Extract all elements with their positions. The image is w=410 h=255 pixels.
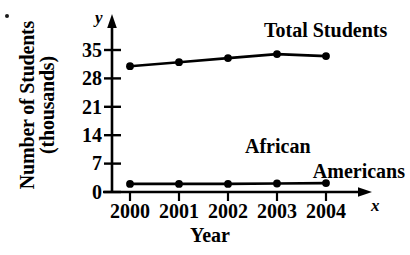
series-label-total-students: Total Students	[264, 19, 387, 42]
chart-container: Number of Students (thousands) y x	[0, 0, 410, 255]
series-total-students-markers	[126, 50, 330, 70]
data-point-total-2001	[175, 58, 183, 66]
x-axis-arrowhead	[358, 187, 372, 197]
y-tick-label-35: 35	[56, 39, 102, 62]
x-tick-label-2001: 2001	[154, 200, 204, 223]
data-point-total-2003	[273, 50, 281, 58]
data-point-total-2000	[126, 62, 134, 70]
y-tick-label-21: 21	[56, 96, 102, 119]
data-point-total-2002	[224, 54, 232, 62]
x-axis-title: Year	[120, 224, 300, 247]
data-point-total-2004	[322, 52, 330, 60]
x-tick-label-2004: 2004	[301, 200, 351, 223]
series-label-african-americans-line-1: African	[245, 135, 311, 157]
data-point-aa-2001	[175, 180, 183, 188]
y-tick-label-0: 0	[56, 181, 102, 204]
data-point-aa-2000	[126, 180, 134, 188]
x-tick-label-2002: 2002	[203, 200, 253, 223]
y-tick-label-7: 7	[56, 152, 102, 175]
series-label-african-americans-line-2: Americans	[245, 159, 405, 184]
y-tick-label-28: 28	[56, 67, 102, 90]
y-axis-arrowhead	[107, 14, 117, 28]
data-point-aa-2002	[224, 180, 232, 188]
y-tick-label-14: 14	[56, 124, 102, 147]
x-tick-label-2000: 2000	[105, 200, 155, 223]
series-label-african-americans: African Americans	[245, 134, 405, 184]
x-tick-label-2003: 2003	[252, 200, 302, 223]
